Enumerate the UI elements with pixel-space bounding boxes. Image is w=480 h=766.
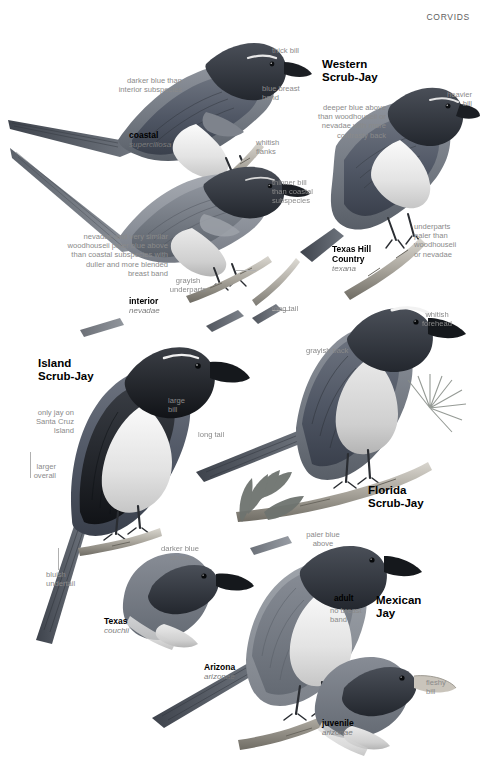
annotation-text: deeper blue above xyxy=(323,103,386,112)
species-name-line2: Scrub-Jay xyxy=(38,370,94,382)
annotation-text: undertail xyxy=(46,579,75,588)
annotation-text: darker blue than xyxy=(127,76,182,85)
annotation-no-breast-band: no breast band xyxy=(330,606,362,624)
species-name-mexican-jay: Mexican Jay xyxy=(376,594,421,619)
annotation-text: than coastal xyxy=(272,187,313,196)
age-text: adult xyxy=(334,594,354,603)
bird-mexican-jay-juvenile xyxy=(315,657,456,756)
annotation-text: flanks xyxy=(256,147,276,156)
subspecies-scientific: texana xyxy=(332,264,356,273)
annotation-grayish-back: grayish back xyxy=(306,346,349,355)
annotation-text: thinner bill xyxy=(272,178,307,187)
species-name-line2: Scrub-Jay xyxy=(368,497,424,509)
annotation-text: paler blue xyxy=(306,530,339,539)
annotation-text: bill xyxy=(463,99,472,108)
annotation-whitish-flanks: whitish flanks xyxy=(256,138,279,156)
annotation-text: band xyxy=(262,93,279,102)
annotation-text: only jay on xyxy=(38,408,74,417)
age-label-juvenile: juvenile xyxy=(322,718,354,728)
subspecies-label-texas-couchii: Texas xyxy=(104,616,127,626)
subspecies-name: Arizona xyxy=(204,662,235,672)
annotation-text: subspecies xyxy=(272,196,310,205)
leader-line xyxy=(58,548,59,570)
annotation-text: overall xyxy=(34,471,56,480)
annotation-larger-overall: larger overall xyxy=(8,462,56,480)
annotation-text: underparts xyxy=(170,285,206,294)
annotation-underparts-paler: underparts paler than woodhouseii or nev… xyxy=(414,222,456,259)
annotation-text: Island xyxy=(54,426,74,435)
annotation-text: blue breast xyxy=(262,84,300,93)
annotation-darker-blue-above: darker blue above xyxy=(148,544,212,562)
subspecies-name: Texas Hill xyxy=(332,244,371,254)
annotation-darker-blue: darker blue than interior subspecies xyxy=(48,76,182,94)
running-head: CORVIDS xyxy=(427,12,470,22)
annotation-text: grayish xyxy=(176,276,200,285)
annotation-text: nevadae with more xyxy=(322,121,386,130)
subspecies-scientific: superciliosa xyxy=(129,140,171,149)
annotation-heavier-bill: heavier bill xyxy=(418,90,472,108)
subspecies-label-interior: interior xyxy=(129,296,158,306)
subspecies-scientific: nevadae xyxy=(129,306,160,315)
subspecies-label-arizona: Arizona xyxy=(204,662,235,672)
subspecies-scientific-superciliosa: superciliosa xyxy=(129,140,171,150)
subspecies-name: Country xyxy=(332,254,365,264)
species-name-line2: Jay xyxy=(376,607,395,619)
age-label-adult: adult xyxy=(334,594,354,603)
subspecies-scientific: couchii xyxy=(104,626,129,635)
annotation-text: long tail xyxy=(198,430,224,439)
annotation-text: paler than xyxy=(414,231,448,240)
annotation-text: darker blue xyxy=(161,544,199,553)
annotation-text: Santa Cruz xyxy=(36,417,74,426)
annotation-text: or nevadae xyxy=(414,250,452,259)
annotation-text: forehead xyxy=(422,319,452,328)
annotation-text: than coastal subspecies with xyxy=(71,250,168,259)
annotation-text: woodhouseii paler blue above xyxy=(68,241,168,250)
annotation-text: bill xyxy=(426,687,435,696)
annotation-fleshy-bill: fleshy bill xyxy=(426,678,446,696)
annotation-thinner-bill: thinner bill than coastal subspecies xyxy=(272,178,313,206)
annotation-text: than woodhouseii or xyxy=(318,112,386,121)
annotation-grayish-underparts: grayish underparts xyxy=(160,276,216,294)
annotation-text: large xyxy=(168,396,185,405)
annotation-text: band xyxy=(330,615,347,624)
bird-illustrations xyxy=(0,0,480,766)
species-name-line2: Scrub-Jay xyxy=(322,71,378,83)
annotation-deeper-blue: deeper blue above than woodhouseii or ne… xyxy=(300,103,386,140)
annotation-text: grayish back xyxy=(306,346,349,355)
annotation-thick-bill: thick bill xyxy=(272,46,299,55)
species-name-line1: Mexican xyxy=(376,594,421,606)
annotation-bluish-undertail: bluish undertail xyxy=(46,570,75,588)
species-name-island-scrub-jay: Island Scrub-Jay xyxy=(38,357,94,382)
annotation-nevadae-comparison: nevadae and very similar woodhouseii pal… xyxy=(28,232,168,278)
subspecies-label-texas-hill-country: Texas Hill Country xyxy=(332,244,371,264)
subspecies-name: coastal xyxy=(129,130,158,140)
annotation-text: contrasty back xyxy=(337,131,386,140)
annotation-text: woodhouseii xyxy=(414,240,456,249)
species-name-western-scrub-jay: Western Scrub-Jay xyxy=(322,58,378,83)
species-name-line1: Western xyxy=(322,58,367,70)
annotation-paler-blue-above: paler blue above xyxy=(292,530,354,548)
age-text: juvenile xyxy=(322,718,354,728)
annotation-text: no breast xyxy=(330,606,362,615)
annotation-text: above xyxy=(170,553,191,562)
subspecies-scientific-arizonae-adult: arizonae xyxy=(204,672,235,682)
bird-florida-scrub-jay xyxy=(196,308,466,522)
subspecies-scientific-arizonae-juvenile: arizonae xyxy=(322,728,353,738)
subspecies-label-coastal: coastal xyxy=(129,130,158,140)
annotation-text: nevadae and very similar xyxy=(84,232,168,241)
annotation-text: above xyxy=(313,539,334,548)
bird-mexican-jay-texas xyxy=(123,553,254,650)
annotation-text: underparts xyxy=(414,222,450,231)
subspecies-scientific: arizonae xyxy=(204,672,235,681)
species-name-line1: Florida xyxy=(368,484,406,496)
species-name-florida-scrub-jay: Florida Scrub-Jay xyxy=(368,484,424,509)
annotation-text: whitish xyxy=(425,310,448,319)
annotation-long-tail-western: long tail xyxy=(272,304,298,313)
subspecies-scientific-texana: texana xyxy=(332,264,356,274)
annotation-text: bill xyxy=(168,405,177,414)
annotation-text: whitish xyxy=(256,138,279,147)
annotation-only-jay-santa-cruz: only jay on Santa Cruz Island xyxy=(14,408,74,436)
annotation-text: fleshy xyxy=(426,678,446,687)
annotation-blue-breast-band: blue breast band xyxy=(262,84,300,102)
subspecies-name: Texas xyxy=(104,616,127,626)
